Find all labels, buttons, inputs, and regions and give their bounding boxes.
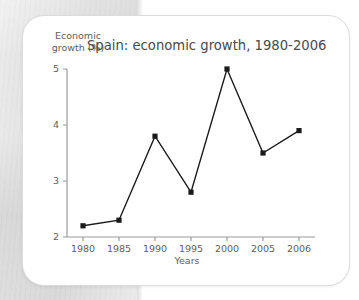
x-tick-label: 2005 xyxy=(251,243,275,254)
data-point-marker xyxy=(116,218,121,223)
chart-card: Economic growth (%) Spain: economic grow… xyxy=(22,15,350,286)
y-tick-label: 3 xyxy=(53,175,59,186)
data-point-marker xyxy=(224,66,229,71)
x-axis-title: Years xyxy=(23,255,350,266)
y-tick-label: 4 xyxy=(53,119,59,130)
y-tick-label: 2 xyxy=(53,231,59,242)
x-tick-label: 1990 xyxy=(143,243,167,254)
line-chart-plot: 2345 1980198519901995200020052006 xyxy=(23,16,350,286)
x-tick-label: 1995 xyxy=(179,243,203,254)
data-point-marker xyxy=(80,223,85,228)
data-point-marker xyxy=(260,150,265,155)
data-series-economic-growth xyxy=(80,66,301,228)
x-tick-label: 2000 xyxy=(215,243,239,254)
data-point-marker xyxy=(152,134,157,139)
x-axis-ticks: 1980198519901995200020052006 xyxy=(71,237,311,254)
y-axis-ticks: 2345 xyxy=(53,63,67,242)
x-tick-label: 1985 xyxy=(107,243,131,254)
data-point-marker xyxy=(188,190,193,195)
data-point-marker xyxy=(296,128,301,133)
x-tick-label: 2006 xyxy=(287,243,311,254)
series-line xyxy=(83,69,299,226)
y-tick-label: 5 xyxy=(53,63,59,74)
x-tick-label: 1980 xyxy=(71,243,95,254)
chart-axes xyxy=(67,69,315,237)
